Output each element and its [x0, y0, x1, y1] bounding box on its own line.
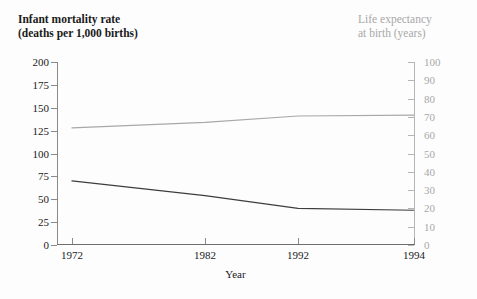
plot-area: 0255075100125150175200 01020304050607080… [57, 62, 414, 245]
right-tick-label: 70 [424, 111, 435, 123]
right-axis-title: Life expectancy at birth (years) [358, 12, 432, 40]
x-axis-label: Year [57, 268, 414, 280]
right-tick-label: 100 [424, 56, 441, 68]
right-tick-label: 30 [424, 184, 435, 196]
series-line [72, 181, 414, 210]
right-tick-mark [408, 245, 414, 246]
x-tick-label: 1982 [194, 249, 216, 261]
right-tick-label: 90 [424, 74, 435, 86]
x-tick-label: 1992 [287, 249, 309, 261]
x-tick-label: 1972 [61, 249, 83, 261]
left-tick-label: 75 [38, 170, 49, 182]
right-tick-label: 40 [424, 166, 435, 178]
x-tick-label: 1994 [403, 249, 425, 261]
right-tick-label: 20 [424, 202, 435, 214]
right-tick-label: 80 [424, 93, 435, 105]
left-tick-label: 0 [44, 239, 50, 251]
x-tick-mark [414, 238, 415, 244]
left-tick-label: 175 [33, 79, 50, 91]
left-tick-label: 100 [33, 148, 50, 160]
series-line [72, 115, 414, 128]
left-tick-label: 25 [38, 216, 49, 228]
right-axis-spine [414, 62, 415, 245]
left-tick-label: 150 [33, 102, 50, 114]
data-series-layer [57, 62, 414, 245]
right-tick-label: 10 [424, 221, 435, 233]
left-tick-label: 200 [33, 56, 50, 68]
right-tick-label: 60 [424, 129, 435, 141]
left-axis-title: Infant mortality rate (deaths per 1,000 … [18, 12, 138, 40]
left-tick-mark [51, 245, 57, 246]
right-tick-label: 50 [424, 148, 435, 160]
left-tick-label: 125 [33, 125, 50, 137]
chart-figure: Infant mortality rate (deaths per 1,000 … [0, 0, 477, 299]
left-tick-label: 50 [38, 193, 49, 205]
